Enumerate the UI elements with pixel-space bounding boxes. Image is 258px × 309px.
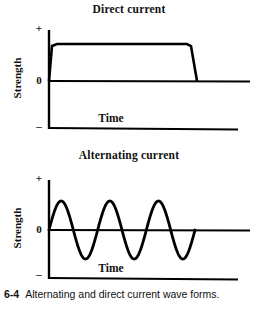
figure-caption: 6-4Alternating and direct current wave f… — [4, 288, 256, 300]
figure-container: Direct current Strength + 0 – Time Alter… — [0, 0, 258, 309]
zero-axis-line-alternating-current — [48, 230, 250, 231]
x-axis-label-alternating-current: Time — [86, 262, 136, 274]
figure-caption-text: Alternating and direct current wave form… — [25, 288, 219, 300]
bottom-axis-line-alternating-current — [48, 278, 238, 280]
figure-number: 6-4 — [4, 288, 19, 300]
